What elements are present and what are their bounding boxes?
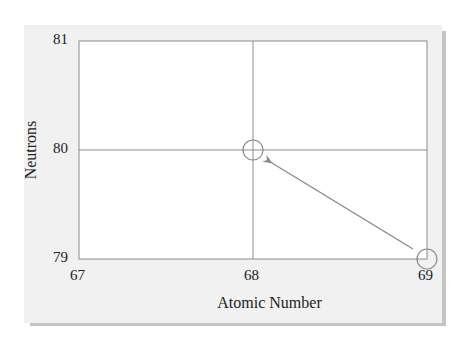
y-axis-label: Neutrons [22, 121, 40, 180]
x-tick-69: 69 [418, 267, 433, 284]
y-tick-80: 80 [53, 140, 68, 157]
x-axis-label: Atomic Number [0, 294, 463, 312]
x-tick-67: 67 [70, 267, 85, 284]
y-tick-81: 81 [53, 31, 68, 48]
x-tick-68: 68 [244, 267, 259, 284]
y-tick-79: 79 [53, 249, 68, 266]
